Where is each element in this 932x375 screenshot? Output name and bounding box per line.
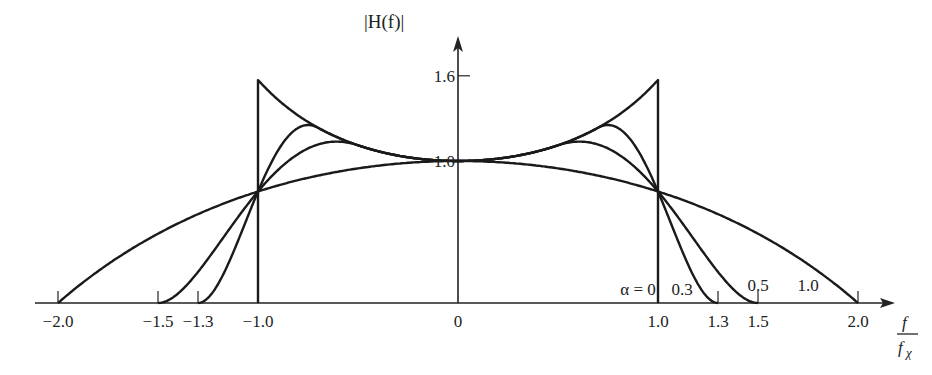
x-tick-label: −1.0 xyxy=(243,312,274,331)
curve-label: 0.3 xyxy=(671,280,692,299)
x-axis-subscript: χ xyxy=(904,345,912,360)
figure: −2.0−1.5−1.3−1.001.01.31.52.01.01.6α = 0… xyxy=(0,0,932,375)
curve-label: α = 0 xyxy=(620,280,656,299)
curve-label: 0.5 xyxy=(747,276,768,295)
x-axis-denominator: f xyxy=(898,338,905,357)
x-tick-label: −1.5 xyxy=(143,312,174,331)
x-tick-label: −2.0 xyxy=(43,312,74,331)
x-tick-label: 1.5 xyxy=(747,312,768,331)
x-tick-label: −1.3 xyxy=(183,312,214,331)
x-tick-label: 1.0 xyxy=(647,312,668,331)
y-tick-label: 1.6 xyxy=(434,67,455,86)
x-tick-label: 0 xyxy=(454,312,463,331)
plot-area: −2.0−1.5−1.3−1.001.01.31.52.01.01.6α = 0… xyxy=(0,0,932,375)
labels: −2.0−1.5−1.3−1.001.01.31.52.01.01.6α = 0… xyxy=(43,67,869,331)
axes xyxy=(35,36,895,308)
curve-label: 1.0 xyxy=(797,276,818,295)
x-axis-title: f f χ xyxy=(897,313,918,360)
x-axis-numerator: f xyxy=(902,313,909,332)
x-tick-label: 1.3 xyxy=(707,312,728,331)
y-tick-label: 1.0 xyxy=(434,152,455,171)
x-tick-label: 2.0 xyxy=(847,312,868,331)
y-axis-title: |H(f)| xyxy=(364,11,404,33)
